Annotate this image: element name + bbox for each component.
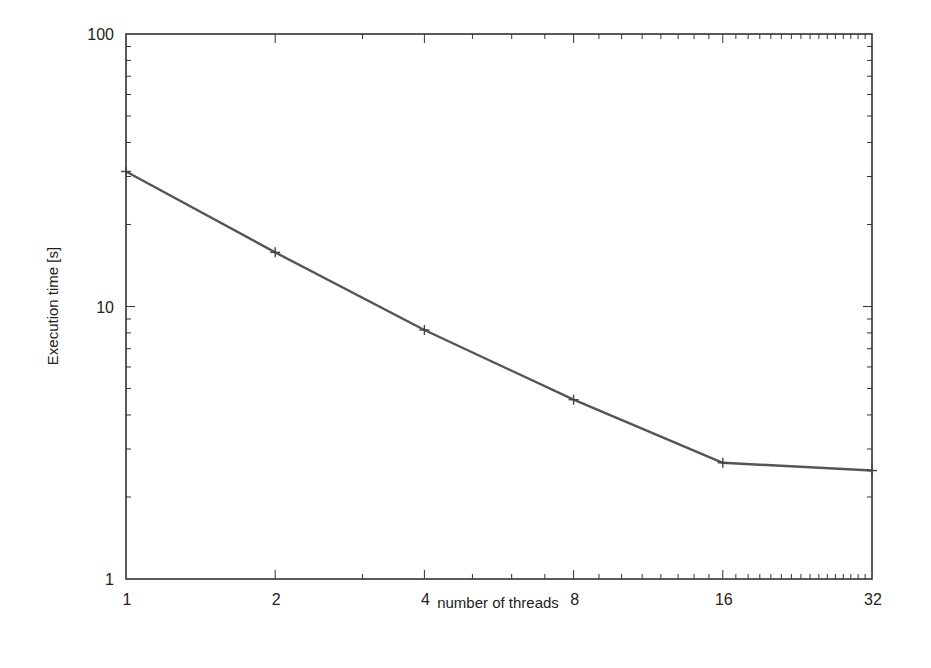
x-tick-label: 8 <box>570 591 579 608</box>
plus-marker-icon <box>270 247 280 257</box>
plot-border <box>126 34 872 579</box>
line-chart: 110100 12481632 number of threads Execut… <box>0 0 931 668</box>
plot-frame <box>126 34 872 579</box>
axis-ticks <box>126 34 872 579</box>
x-tick-label: 1 <box>123 591 132 608</box>
plus-marker-icon <box>419 325 429 335</box>
y-axis-tick-labels: 110100 <box>87 26 114 588</box>
data-series <box>121 166 877 475</box>
y-tick-label: 10 <box>96 299 114 316</box>
plus-marker-icon <box>121 166 131 176</box>
y-tick-label: 100 <box>87 26 114 43</box>
x-tick-label: 4 <box>421 591 430 608</box>
y-axis-label: Execution time [s] <box>44 247 61 365</box>
plus-marker-icon <box>718 458 728 468</box>
x-axis-label: number of threads <box>437 594 559 611</box>
x-tick-label: 16 <box>715 591 733 608</box>
plus-marker-icon <box>569 395 579 405</box>
series-line <box>126 171 872 470</box>
x-tick-label: 32 <box>864 591 882 608</box>
plus-marker-icon <box>867 466 877 476</box>
y-tick-label: 1 <box>105 571 114 588</box>
x-tick-label: 2 <box>272 591 281 608</box>
